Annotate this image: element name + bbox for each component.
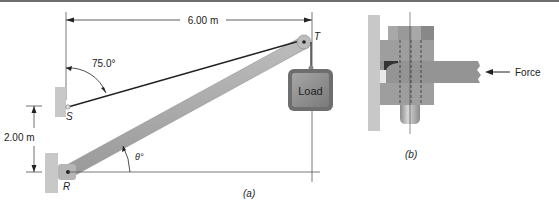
dim-arrow-down bbox=[32, 165, 37, 172]
angle-label-75: 75.0° bbox=[92, 58, 115, 69]
diagram-canvas: 6.00 m 75.0° Load θ° bbox=[0, 0, 559, 211]
figure-a: 6.00 m 75.0° Load θ° bbox=[4, 12, 333, 199]
dimension-label-2m: 2.00 m bbox=[4, 132, 35, 143]
pivot-s bbox=[66, 105, 70, 109]
figure-b: Force (b) bbox=[368, 12, 541, 160]
caption-a: (a) bbox=[243, 188, 255, 199]
dimension-label-6m: 6.00 m bbox=[188, 15, 219, 26]
clevis-upper bbox=[380, 40, 434, 61]
arrowhead-right bbox=[304, 18, 312, 23]
dim-arrow-up bbox=[32, 106, 37, 113]
caption-b: (b) bbox=[405, 149, 417, 160]
cable bbox=[68, 40, 303, 107]
angle-label-theta: θ° bbox=[135, 152, 144, 162]
bar bbox=[380, 61, 481, 83]
wall-s bbox=[55, 87, 66, 117]
clevis-lower bbox=[380, 83, 434, 105]
arrowhead-left bbox=[66, 18, 74, 23]
bar-gap bbox=[380, 70, 386, 83]
label-t: T bbox=[314, 31, 321, 42]
label-s: S bbox=[66, 111, 73, 122]
wall-r bbox=[45, 153, 58, 193]
force-label: Force bbox=[515, 67, 541, 78]
arc-arrow-end bbox=[101, 87, 106, 93]
bracket-wall bbox=[368, 15, 380, 131]
bolt-head-side bbox=[421, 26, 434, 40]
label-r: R bbox=[63, 181, 70, 192]
force-arrowhead bbox=[485, 69, 493, 75]
load-label: Load bbox=[298, 85, 322, 97]
pulley-axle bbox=[302, 40, 306, 44]
angle-arc-75 bbox=[66, 68, 106, 93]
arc-arrow-start bbox=[66, 66, 72, 71]
